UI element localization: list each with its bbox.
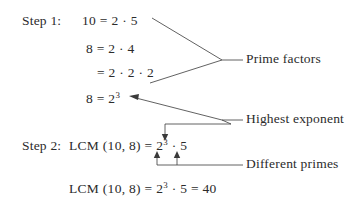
leader-line-highest-exponent-lower <box>222 120 231 124</box>
arrowhead-down-to-exponent <box>162 134 168 141</box>
leader-line-highest-exponent-upper <box>136 98 222 120</box>
leader-line-prime-factors-lower <box>150 60 222 83</box>
leader-lines-layer <box>0 0 347 205</box>
arrowhead-up-to-factor-five <box>174 151 180 158</box>
lcm-prime-factorization-diagram: Step 1: 10 = 2 · 5 8 = 2 · 4 = 2 · 2 · 2… <box>0 0 347 205</box>
bracket-down-to-exponent <box>165 124 231 136</box>
arrowhead-highest-exponent-at-exponent <box>129 94 139 100</box>
arrowhead-up-to-base-two <box>154 151 160 158</box>
leader-line-prime-factors-upper <box>152 18 222 60</box>
